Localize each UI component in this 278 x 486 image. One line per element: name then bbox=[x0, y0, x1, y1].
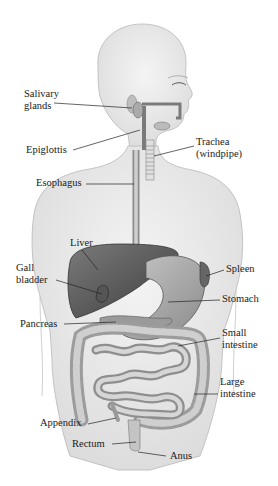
digestive-system-illustration bbox=[0, 0, 278, 486]
label-anus: Anus bbox=[170, 450, 192, 462]
label-line: Pancreas bbox=[20, 318, 57, 330]
label-line: Spleen bbox=[226, 263, 255, 275]
label-line: Liver bbox=[70, 237, 93, 249]
label-liver: Liver bbox=[70, 237, 93, 249]
label-trachea: Trachea (windpipe) bbox=[196, 136, 242, 160]
label-line: Stomach bbox=[222, 293, 259, 305]
label-small-intestine: Small intestine bbox=[222, 327, 258, 351]
label-line: Salivary bbox=[24, 88, 59, 100]
label-line: intestine bbox=[220, 388, 256, 400]
label-line: Gall bbox=[16, 262, 48, 274]
label-line: Epiglottis bbox=[26, 144, 67, 156]
label-esophagus: Esophagus bbox=[36, 177, 82, 189]
label-line: Anus bbox=[170, 450, 192, 462]
label-line: Rectum bbox=[72, 438, 105, 450]
rectum bbox=[128, 420, 140, 451]
label-salivary-glands: Salivary glands bbox=[24, 88, 59, 112]
label-line: Large bbox=[220, 376, 256, 388]
label-rectum: Rectum bbox=[72, 438, 105, 450]
label-gall-bladder: Gall bladder bbox=[16, 262, 48, 286]
label-line: Small bbox=[222, 327, 258, 339]
label-line: glands bbox=[24, 100, 59, 112]
label-large-intestine: Large intestine bbox=[220, 376, 256, 400]
label-line: intestine bbox=[222, 339, 258, 351]
label-line: Trachea bbox=[196, 136, 242, 148]
trachea bbox=[146, 140, 154, 180]
label-line: Appendix bbox=[40, 417, 81, 429]
label-appendix: Appendix bbox=[40, 417, 81, 429]
label-spleen: Spleen bbox=[226, 263, 255, 275]
label-epiglottis: Epiglottis bbox=[26, 144, 67, 156]
label-stomach: Stomach bbox=[222, 293, 259, 305]
label-line: (windpipe) bbox=[196, 148, 242, 160]
label-line: bladder bbox=[16, 274, 48, 286]
label-pancreas: Pancreas bbox=[20, 318, 57, 330]
label-line: Esophagus bbox=[36, 177, 82, 189]
gall-bladder bbox=[96, 285, 108, 302]
